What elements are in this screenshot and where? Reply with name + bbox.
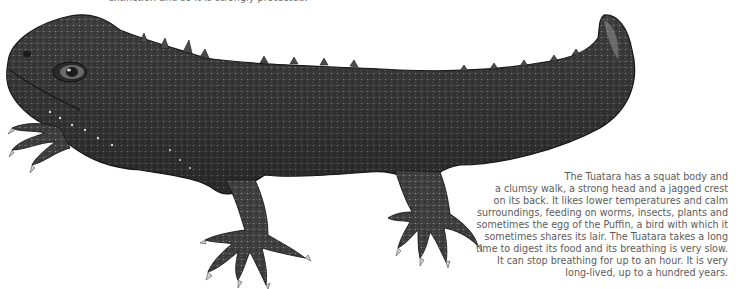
description-line: time to digest its food and its breathin… xyxy=(368,243,728,255)
description-line: long-lived, up to a hundred years. xyxy=(368,267,728,279)
description-line: a clumsy walk, a strong head and a jagge… xyxy=(368,183,728,195)
description-line: sometimes shares its lair. The Tuatara t… xyxy=(368,231,728,243)
nostril xyxy=(23,51,31,57)
description-line: surroundings, feeding on worms, insects,… xyxy=(368,207,728,219)
front-left-foot xyxy=(12,124,70,166)
description-line: It can stop breathing for up to an hour.… xyxy=(368,255,728,267)
description-line: The Tuatara has a squat body and xyxy=(368,171,728,183)
eye-icon xyxy=(53,62,87,82)
description-line: on its back. It likes lower temperatures… xyxy=(368,195,728,207)
front-right-foot xyxy=(205,180,305,285)
tuatara-body xyxy=(7,15,635,194)
description-text: The Tuatara has a squat body and a clums… xyxy=(368,171,728,279)
description-line: sometimes the egg of the Puffin, a bird … xyxy=(368,219,728,231)
